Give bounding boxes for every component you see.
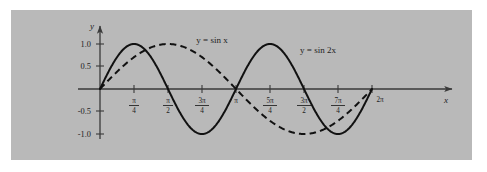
curve-label-sin-x: y = sin x	[196, 35, 228, 45]
x-tick-label-7pi-over-4: 7π 4	[331, 97, 345, 115]
x-tick-den-3pi-over-2: 2	[302, 107, 306, 115]
curve-label-sin-2x: y = sin 2x	[300, 45, 336, 55]
y-tick-label-0-5: 0.5	[81, 62, 91, 71]
y-tick-label-1-0: 1.0	[81, 40, 91, 49]
y-tick-label-neg-0-5: -0.5	[78, 107, 91, 116]
x-axis-label: x	[443, 95, 448, 105]
figure-root: 1.0 0.5 -0.5 -1.0 π 4 π 2 3π	[0, 0, 487, 172]
x-tick-den-pi-over-2: 2	[166, 107, 170, 115]
x-tick-num-3pi-over-4: 3π	[198, 97, 206, 105]
x-tick-label-3pi-over-4: 3π 4	[195, 97, 209, 115]
x-tick-den-pi-over-4: 4	[132, 107, 136, 115]
x-tick-num-5pi-over-4: 5π	[266, 97, 274, 105]
x-tick-num-7pi-over-4: 7π	[334, 97, 342, 105]
x-tick-label-pi: π	[234, 97, 238, 105]
x-tick-den-5pi-over-4: 4	[268, 107, 272, 115]
x-tick-num-3pi-over-2: 3π	[300, 97, 308, 105]
x-tick-label-2pi: 2π	[376, 96, 384, 104]
y-axis-label: y	[89, 21, 94, 31]
x-tick-den-3pi-over-4: 4	[200, 107, 204, 115]
sine-curves-chart: 1.0 0.5 -0.5 -1.0 π 4 π 2 3π	[0, 0, 487, 172]
x-tick-label-pi-over-4: π 4	[129, 97, 139, 115]
y-tick-label-neg-1-0: -1.0	[78, 130, 91, 139]
x-tick-label-5pi-over-4: 5π 4	[263, 97, 277, 115]
x-tick-num-pi-over-4: π	[132, 97, 136, 105]
x-tick-den-7pi-over-4: 4	[336, 107, 340, 115]
x-tick-num-pi-over-2: π	[166, 97, 170, 105]
x-tick-label-pi-over-2: π 2	[163, 97, 173, 115]
